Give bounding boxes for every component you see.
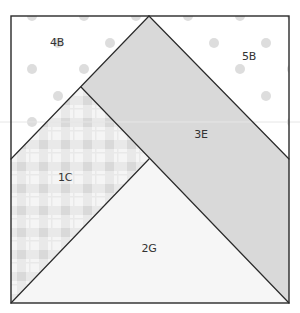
label-4B: 4B xyxy=(50,36,64,49)
label-5B: 5B xyxy=(242,50,256,63)
label-1C: 1C xyxy=(58,171,73,184)
label-3E: 3E xyxy=(194,128,208,141)
quilt-block-diagram: 4B 5B 3E 1C 2G xyxy=(0,0,300,313)
label-2G: 2G xyxy=(142,242,157,255)
